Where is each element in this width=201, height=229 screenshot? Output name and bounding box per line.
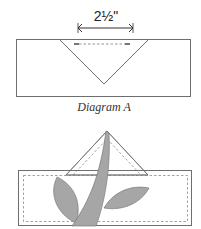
diagram-canvas: 2½" Diagram A bbox=[0, 0, 201, 229]
diagram-b bbox=[19, 131, 192, 226]
left-leaf bbox=[54, 177, 79, 223]
stitch-knot-right bbox=[125, 43, 130, 45]
stitch-knot-left bbox=[74, 43, 79, 45]
diagram-caption: Diagram A bbox=[76, 100, 131, 114]
diagram-a: 2½" Diagram A bbox=[17, 8, 191, 114]
measurement-arrow bbox=[78, 23, 133, 33]
right-leaf bbox=[104, 187, 149, 209]
measurement-label: 2½" bbox=[94, 8, 118, 24]
fabric-rectangle bbox=[17, 40, 191, 97]
